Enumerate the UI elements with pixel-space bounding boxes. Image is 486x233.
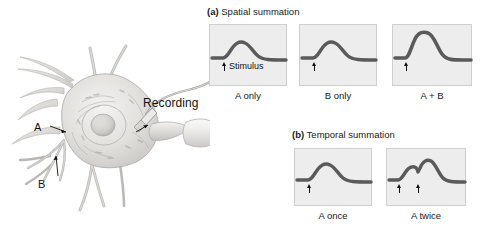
synapse-label-a: A	[34, 121, 41, 133]
synapse-label-b: B	[38, 178, 45, 190]
trace-a-twice	[387, 149, 467, 207]
panel-caption-a-plus-b: A + B	[392, 90, 472, 101]
panel-b-only	[299, 24, 377, 86]
panel-caption-a-once: A once	[294, 210, 372, 221]
trace-a-plus-b	[393, 25, 473, 87]
section-tag-a: (a)	[207, 6, 219, 17]
section-tag-b: (b)	[292, 129, 304, 140]
section-title-b: Temporal summation	[307, 129, 395, 140]
section-header-temporal: (b) Temporal summation	[292, 129, 395, 140]
neuron-summation-figure: A B Recording (a) Spatial summation Stim…	[0, 0, 486, 233]
axon	[149, 119, 210, 147]
panel-a-once	[294, 148, 372, 206]
trace-a-once	[295, 149, 373, 207]
panel-a-twice	[386, 148, 466, 206]
recording-label: Recording	[143, 96, 199, 110]
section-header-spatial: (a) Spatial summation	[207, 6, 299, 17]
trace-a-only	[210, 25, 288, 87]
panel-a-plus-b	[392, 24, 472, 86]
panel-caption-b-only: B only	[299, 90, 377, 101]
stimulus-label: Stimulus	[229, 61, 264, 71]
panel-caption-a-twice: A twice	[386, 210, 466, 221]
panel-caption-a-only: A only	[209, 90, 287, 101]
trace-b-only	[300, 25, 378, 87]
panel-a-only: Stimulus	[209, 24, 287, 86]
neuron-illustration: A B	[0, 28, 210, 228]
section-title-a: Spatial summation	[221, 6, 299, 17]
